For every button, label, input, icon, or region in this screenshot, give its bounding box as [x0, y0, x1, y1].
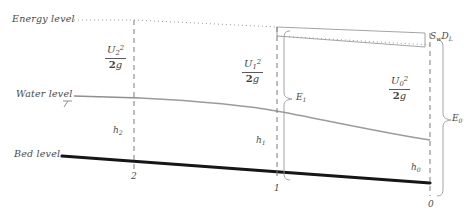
station-label-0: 0	[428, 200, 434, 209]
water-level-hatch-icon	[63, 101, 72, 107]
energy-level-line-group	[74, 20, 430, 45]
velocity-head-station-1: U12 2g	[242, 59, 263, 84]
energy-label-e1: E1	[296, 93, 306, 103]
energy-grade-line-diagram: Energy level Water level Bed level U22 2…	[0, 0, 476, 223]
energy-bracket-e0-path	[437, 40, 451, 196]
depth-label-h1: h1	[256, 136, 266, 146]
depth-label-h2: h2	[113, 126, 123, 136]
velocity-head-station-2: U22 2g	[105, 45, 126, 70]
velocity-head-station-0-numerator: U02	[389, 76, 410, 90]
bed-level-group	[62, 156, 430, 183]
velocity-head-station-1-numerator: U12	[242, 59, 263, 73]
velocity-head-station-2-denominator: 2g	[105, 59, 126, 71]
diagram-canvas	[0, 0, 476, 223]
velocity-head-station-0-denominator: 2g	[389, 90, 410, 102]
energy-level-segment-2-1	[134, 20, 277, 27]
energy-level-label: Energy level	[12, 14, 75, 24]
head-loss-wedge	[277, 27, 425, 47]
velocity-head-station-1-denominator: 2g	[242, 73, 263, 85]
depth-label-h0: h0	[411, 163, 421, 173]
energy-bracket-e0	[437, 40, 451, 196]
bed-level-label: Bed level	[14, 149, 60, 159]
water-level-label: Water level	[16, 89, 73, 99]
velocity-head-station-0: U02 2g	[389, 76, 410, 101]
water-surface-leader	[74, 96, 140, 98]
energy-bracket-e1-path	[284, 31, 292, 180]
energy-label-e0: E0	[452, 114, 462, 124]
head-loss-label: SwDL	[430, 32, 453, 42]
station-verticals	[134, 20, 430, 196]
station-label-2: 2	[131, 172, 137, 181]
energy-bracket-e1	[284, 31, 292, 180]
head-loss-wedge-outline	[277, 27, 425, 47]
bed-level-line	[62, 156, 430, 183]
velocity-head-station-2-numerator: U22	[105, 45, 126, 59]
station-label-1: 1	[274, 184, 280, 193]
water-surface-profile	[140, 98, 430, 140]
